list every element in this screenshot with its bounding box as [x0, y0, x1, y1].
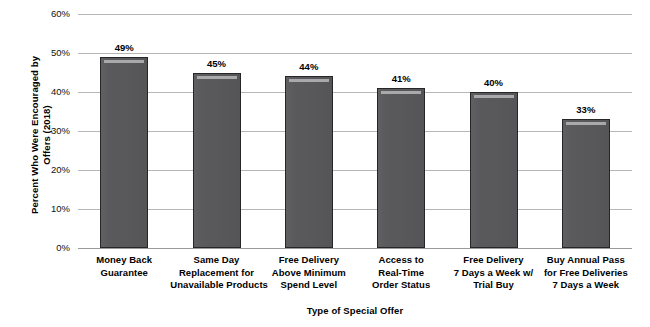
bar-top-highlight: [381, 91, 421, 94]
bar-value-label: 49%: [94, 42, 154, 53]
y-tick-label-0: 0%: [30, 242, 70, 253]
bar-top-highlight: [197, 76, 237, 79]
y-tick-label-60: 60%: [30, 8, 70, 19]
x-category-label-line: Spend Level: [263, 279, 355, 292]
x-category-label-line: for Free Deliveries: [540, 267, 632, 280]
bar-group: [193, 73, 241, 249]
x-category-label-line: Trial Buy: [447, 279, 539, 292]
x-category-label-line: Real-Time: [355, 267, 447, 280]
x-category-label-line: Free Delivery: [263, 254, 355, 267]
bar-group: [377, 88, 425, 248]
bar: [100, 57, 148, 248]
bar-value-label: 40%: [464, 77, 524, 88]
x-category-label-line: Replacement for: [170, 267, 262, 280]
x-category-label-line: Money Back: [78, 254, 170, 267]
bar: [470, 92, 518, 248]
bar-value-label: 45%: [187, 58, 247, 69]
x-category-label-line: 7 Days a Week w/: [447, 267, 539, 280]
x-category-label: Same DayReplacement forUnavailable Produ…: [170, 254, 262, 292]
bar-group: [100, 57, 148, 248]
x-category-label: Access toReal-TimeOrder Status: [355, 254, 447, 292]
bar-top-highlight: [289, 79, 329, 82]
x-axis-category-labels: Money BackGuaranteeSame DayReplacement f…: [78, 254, 632, 302]
x-category-label-line: Guarantee: [78, 267, 170, 280]
bar: [193, 73, 241, 249]
x-category-label: Free DeliveryAbove MinimumSpend Level: [263, 254, 355, 292]
x-category-label-line: Buy Annual Pass: [540, 254, 632, 267]
bar: [377, 88, 425, 248]
bar-chart: Percent Who Were Encouraged by Offers (2…: [0, 0, 650, 327]
x-category-label-line: Free Delivery: [447, 254, 539, 267]
x-category-label-line: Same Day: [170, 254, 262, 267]
y-tick-label-30: 30%: [30, 125, 70, 136]
plot-area: 49%45%44%41%40%33%: [78, 14, 632, 248]
x-category-label: Free Delivery7 Days a Week w/Trial Buy: [447, 254, 539, 292]
y-tick-label-50: 50%: [30, 47, 70, 58]
bar-value-label: 41%: [371, 73, 431, 84]
x-category-label-line: Order Status: [355, 279, 447, 292]
x-category-label-line: Unavailable Products: [170, 279, 262, 292]
x-category-label-line: Above Minimum: [263, 267, 355, 280]
gridline-0: [78, 248, 632, 249]
x-category-label-line: Access to: [355, 254, 447, 267]
bar: [562, 119, 610, 248]
bar-top-highlight: [566, 122, 606, 125]
bar-group: [285, 76, 333, 248]
bar-top-highlight: [104, 60, 144, 63]
y-tick-label-10: 10%: [30, 203, 70, 214]
bar-value-label: 33%: [556, 104, 616, 115]
x-category-label: Buy Annual Passfor Free Deliveries7 Days…: [540, 254, 632, 292]
y-tick-label-40: 40%: [30, 86, 70, 97]
bar-group: [470, 92, 518, 248]
bar-top-highlight: [474, 95, 514, 98]
bars-layer: 49%45%44%41%40%33%: [78, 14, 632, 248]
bar: [285, 76, 333, 248]
x-category-label: Money BackGuarantee: [78, 254, 170, 279]
bar-value-label: 44%: [279, 61, 339, 72]
x-category-label-line: 7 Days a Week: [540, 279, 632, 292]
x-axis-title: Type of Special Offer: [78, 305, 632, 316]
bar-group: [562, 119, 610, 248]
y-tick-label-20: 20%: [30, 164, 70, 175]
